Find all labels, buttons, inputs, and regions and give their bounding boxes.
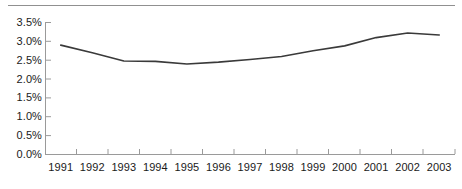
x-tick-label: 1992 [77,160,109,176]
y-tick-label: 2.5% [0,55,42,66]
x-tick-label: 1998 [266,160,298,176]
x-tick-label: 1991 [45,160,77,176]
y-tick-label: 2.0% [0,74,42,85]
chart-screenshot: 3.5% 3.0% 2.5% 2.0% 1.5% 1.0% 0.5% 0.0% … [0,0,462,189]
y-tick-label: 3.5% [0,17,42,28]
y-axis-tick-labels: 3.5% 3.0% 2.5% 2.0% 1.5% 1.0% 0.5% 0.0% [0,0,42,189]
y-tick-label: 0.0% [0,149,42,160]
x-tick-label: 1994 [140,160,172,176]
x-tick-label: 1993 [108,160,140,176]
x-axis-tick-labels: 1991 1992 1993 1994 1995 1996 1997 1998 … [45,160,455,176]
x-tick-label: 2002 [392,160,424,176]
data-series-line [61,33,439,64]
x-tick-label: 2003 [423,160,455,176]
y-tick-label: 3.0% [0,36,42,47]
x-axis-ticks [77,149,456,154]
line-chart: 3.5% 3.0% 2.5% 2.0% 1.5% 1.0% 0.5% 0.0% … [0,0,462,189]
x-tick-label: 1995 [171,160,203,176]
x-tick-label: 2001 [360,160,392,176]
x-tick-label: 2000 [329,160,361,176]
y-tick-label: 1.0% [0,111,42,122]
y-tick-label: 0.5% [0,130,42,141]
y-tick-label: 1.5% [0,92,42,103]
x-tick-label: 1999 [297,160,329,176]
x-tick-label: 1996 [203,160,235,176]
x-tick-label: 1997 [234,160,266,176]
